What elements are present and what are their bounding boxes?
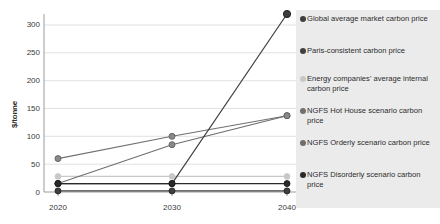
legend-marker-icon [300,76,306,82]
chart-legend: Global average market carbon price Paris… [296,10,440,208]
series-energy-companies-internal [55,174,290,180]
legend-marker-icon [300,140,306,146]
legend-item-ngfs-orderly[interactable]: NGFS Orderly scenario carbon price [300,138,438,148]
series-ngfs-hot-house [55,113,290,162]
legend-label: NGFS Orderly scenario carbon price [307,138,438,148]
legend-label: NGFS Hot House scenario carbon price [307,106,438,125]
legend-item-ngfs-hot-house[interactable]: NGFS Hot House scenario carbon price [300,106,438,125]
legend-marker-icon [300,16,306,22]
legend-label: Energy companies' average internal carbo… [307,74,438,93]
legend-item-ngfs-disorderly[interactable]: NGFS Disorderly scenario carbon price [300,170,438,189]
legend-item-paris-consistent[interactable]: Paris-consistent carbon price [300,46,438,56]
carbon-price-line-chart: $/tonne 300 250 200 150 100 50 0 2020 20… [0,0,440,224]
legend-marker-icon [300,108,306,114]
legend-label: NGFS Disorderly scenario carbon price [307,170,438,189]
series-paris-consistent [55,10,291,186]
legend-label: Paris-consistent carbon price [307,46,438,56]
legend-label: Global average market carbon price [307,14,438,24]
legend-item-global-average-market[interactable]: Global average market carbon price [300,14,438,24]
legend-item-energy-companies-internal[interactable]: Energy companies' average internal carbo… [300,74,438,93]
legend-marker-icon [300,172,306,178]
series-global-average-market [55,188,290,194]
legend-marker-icon [300,48,306,54]
series-ngfs-disorderly [55,181,290,187]
